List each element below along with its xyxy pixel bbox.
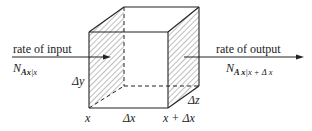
- output-flux-label: NA x|x + Δ x: [226, 62, 272, 74]
- dz-label: Δz: [188, 94, 200, 106]
- output-label: rate of output: [216, 43, 281, 55]
- input-flux-label: NAx|x: [13, 62, 37, 74]
- x-plus-dx-position-label: x + Δx: [163, 112, 195, 124]
- x-position-label: x: [85, 112, 90, 124]
- dx-label: Δx: [123, 112, 135, 124]
- input-label: rate of input: [13, 43, 72, 55]
- dy-label: Δy: [72, 75, 84, 87]
